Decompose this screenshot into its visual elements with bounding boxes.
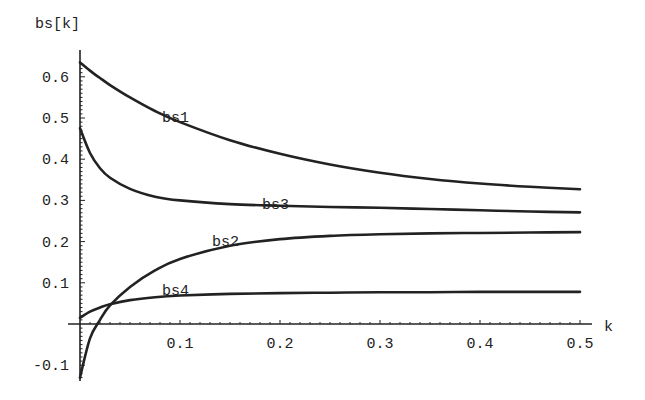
y-tick-label: 0.2 [42,235,69,252]
x-tick-label: 0.2 [266,336,293,353]
series-bs1 [80,62,580,189]
label-bs3: bs3 [262,197,289,214]
series-bs3 [80,128,580,212]
label-bs4: bs4 [162,283,189,300]
x-tick-label: 0.5 [566,336,593,353]
y-axis-title: bs[k] [35,16,80,33]
curves [80,62,580,377]
label-bs2: bs2 [212,234,239,251]
y-tick-label: 0.6 [42,70,69,87]
x-tick-label: 0.3 [366,336,393,353]
x-axis-title: k [604,319,613,336]
y-tick-label: 0.5 [42,111,69,128]
y-tick-label: -0.1 [33,358,69,375]
y-tick-label: 0.1 [42,276,69,293]
series-bs2 [80,232,580,377]
x-tick-label: 0.1 [166,336,193,353]
y-tick-label: 0.4 [42,152,69,169]
series-bs4 [80,292,580,318]
x-tick-label: 0.4 [466,336,493,353]
line-chart: 0.10.20.30.40.5-0.10.10.20.30.40.50.6 bs… [0,0,645,400]
axes: 0.10.20.30.40.5-0.10.10.20.30.40.50.6 [33,50,594,381]
y-tick-label: 0.3 [42,193,69,210]
label-bs1: bs1 [162,110,189,127]
